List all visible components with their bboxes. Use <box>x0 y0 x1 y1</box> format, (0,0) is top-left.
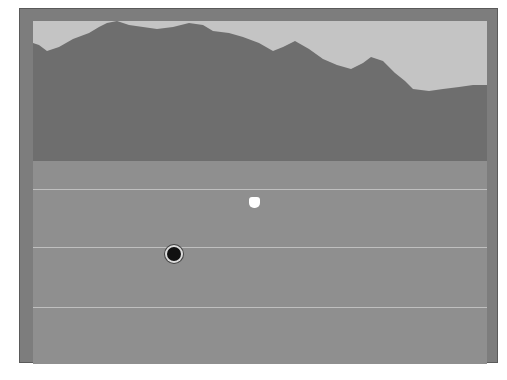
target-marker-icon[interactable] <box>167 247 181 261</box>
figure-caption <box>22 372 502 380</box>
white-blob-marker[interactable] <box>249 197 260 208</box>
horizon-line-3 <box>33 307 487 308</box>
horizon-line-1 <box>33 189 487 190</box>
game-viewport[interactable] <box>33 21 487 364</box>
mountain-skyline <box>33 21 487 364</box>
horizon-line-2 <box>33 247 487 248</box>
screenshot-frame <box>19 8 498 363</box>
